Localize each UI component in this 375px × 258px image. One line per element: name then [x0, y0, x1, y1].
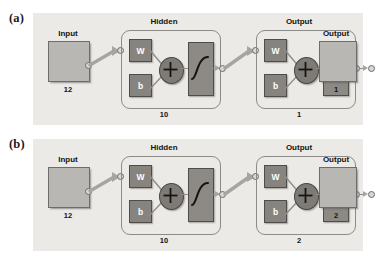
input-size-a: 12: [41, 85, 95, 94]
input-box-b: [48, 167, 90, 208]
hidden-sum-node-b: [159, 183, 184, 210]
hidden-layer-size-b: 10: [116, 236, 212, 245]
hidden-layer-title-a: Hidden: [116, 17, 212, 26]
output-size-b: 2: [309, 211, 363, 220]
output-sum-node-b: [294, 183, 319, 210]
output-label-b: Output: [309, 155, 363, 164]
output-box-a: [319, 41, 357, 82]
output-layer-title-b: Output: [251, 143, 347, 152]
input-box-a: [48, 41, 90, 82]
input-label-a: Input: [41, 29, 95, 38]
subfigure-label-a: (a): [9, 11, 24, 26]
output-label-a: Output: [309, 29, 363, 38]
output-layer-title-a: Output: [251, 17, 347, 26]
output-layer-size-b: 2: [251, 236, 347, 245]
output-layer-size-a: 1: [251, 110, 347, 119]
output-tail-arrow-b: [363, 191, 368, 197]
output-final-node-b: [368, 191, 375, 198]
subfigure-label-b: (b): [9, 137, 25, 152]
output-sum-node-a: [294, 57, 319, 84]
input-label-b: Input: [41, 155, 95, 164]
output-box-b: [319, 167, 357, 208]
output-final-node-a: [368, 65, 375, 72]
output-size-a: 1: [309, 85, 363, 94]
hidden-sum-node-a: [159, 57, 184, 84]
hidden-layer-title-b: Hidden: [116, 143, 212, 152]
hidden-layer-size-a: 10: [116, 110, 212, 119]
output-tail-arrow-a: [363, 65, 368, 71]
input-size-b: 12: [41, 211, 95, 220]
